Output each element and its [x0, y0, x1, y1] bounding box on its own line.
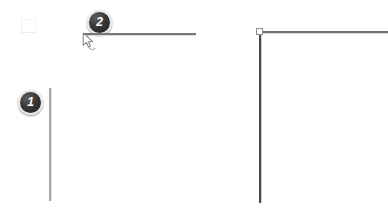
anchor-handle-icon[interactable] [256, 28, 263, 35]
vertical-line-left[interactable] [49, 88, 51, 201]
mouse-cursor-icon [82, 32, 98, 52]
horizontal-line-top-right[interactable] [260, 31, 388, 33]
annotated-screenshot-canvas: 1 2 [0, 0, 388, 211]
step-badge-1[interactable]: 1 [18, 90, 43, 115]
faint-corner-mark-icon [21, 19, 36, 33]
vertical-line-right[interactable] [259, 33, 261, 203]
horizontal-line-top-left[interactable] [84, 33, 196, 35]
